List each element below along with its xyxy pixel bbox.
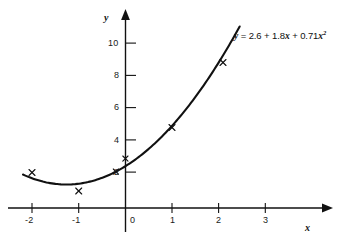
equation-annotation: y = 2.6 + 1.8x + 0.71x2 (234, 29, 326, 41)
x-tick-label: -1 (72, 215, 81, 225)
x-axis-label: x (305, 222, 310, 233)
equation-operator-intercept: = 2.6 + 1.8 (238, 30, 285, 41)
y-tick-label: 6 (114, 102, 119, 112)
data-point-marker (29, 170, 35, 176)
x-tick-label: 3 (263, 215, 268, 225)
equation-operator-quadratic: + 0.71 (290, 30, 319, 41)
data-point-markers (29, 60, 226, 195)
x-tick-label: 2 (216, 215, 221, 225)
data-point-marker (220, 60, 226, 66)
y-axis (121, 9, 130, 232)
data-point-marker (76, 188, 82, 194)
y-tick-label: 2 (114, 167, 119, 177)
figure-container: 10 8 6 4 2 -2 -1 0 1 2 3 y x y = 2.6 + 1… (0, 0, 340, 246)
y-tick-label: 4 (114, 135, 119, 145)
y-tick-label: 8 (114, 70, 119, 80)
x-tick-label: 0 (130, 215, 135, 225)
y-axis-label: y (104, 12, 108, 23)
y-tick-label: 10 (108, 38, 119, 48)
equation-exponent: 2 (323, 29, 326, 36)
x-axis (8, 204, 333, 213)
fitted-curve (23, 27, 240, 224)
y-axis-ticks (126, 43, 136, 172)
x-tick-label: 1 (170, 215, 175, 225)
x-tick-label: -2 (25, 215, 34, 225)
